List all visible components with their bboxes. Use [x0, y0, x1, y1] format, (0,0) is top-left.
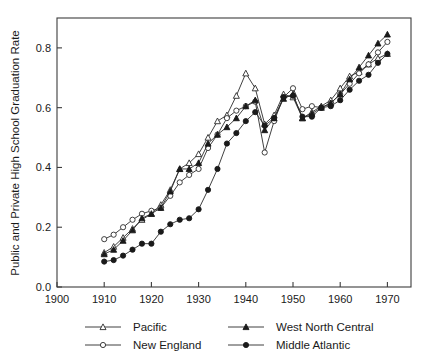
data-point — [272, 116, 277, 121]
x-tick-label: 1940 — [234, 293, 258, 305]
legend-marker — [100, 342, 105, 347]
data-point — [168, 222, 173, 227]
data-point — [356, 71, 361, 76]
x-tick-label: 1930 — [186, 293, 210, 305]
y-tick-label: 0.4 — [36, 161, 51, 173]
data-point — [366, 62, 371, 67]
x-tick-label: 1900 — [45, 293, 69, 305]
data-point — [130, 217, 135, 222]
x-tick-label: 1910 — [92, 293, 116, 305]
data-point — [347, 87, 352, 92]
data-point — [328, 104, 333, 109]
legend-label: Middle Atlantic — [276, 339, 350, 351]
chart-figure: 19001910192019301940195019601970 0.00.20… — [0, 0, 426, 360]
legend-label: New England — [133, 339, 201, 351]
x-tick-label: 1960 — [328, 293, 352, 305]
x-tick-label: 1950 — [281, 293, 305, 305]
data-point — [262, 150, 267, 155]
y-tick-label: 0.6 — [36, 102, 51, 114]
data-point — [234, 130, 239, 135]
data-point — [224, 141, 229, 146]
data-point — [234, 108, 239, 113]
y-tick-label: 0.0 — [36, 281, 51, 293]
data-point — [290, 86, 295, 91]
data-point — [158, 229, 163, 234]
data-point — [375, 60, 380, 65]
data-point — [149, 241, 154, 246]
data-point — [253, 110, 258, 115]
data-point — [385, 39, 390, 44]
data-point — [187, 216, 192, 221]
data-point — [111, 232, 116, 237]
data-point — [196, 207, 201, 212]
data-point — [224, 116, 229, 121]
data-point — [139, 241, 144, 246]
data-point — [187, 172, 192, 177]
data-point — [102, 237, 107, 242]
data-point — [338, 98, 343, 103]
data-point — [196, 166, 201, 171]
data-point — [243, 119, 248, 124]
data-point — [177, 217, 182, 222]
data-point — [375, 50, 380, 55]
data-point — [111, 258, 116, 263]
x-tick-label: 1970 — [375, 293, 399, 305]
data-point — [309, 104, 314, 109]
data-point — [281, 95, 286, 100]
data-point — [205, 187, 210, 192]
data-point — [385, 51, 390, 56]
data-point — [215, 166, 220, 171]
legend-marker — [243, 342, 248, 347]
x-tick-label: 1920 — [139, 293, 163, 305]
chart-background — [0, 0, 426, 360]
data-point — [300, 107, 305, 112]
data-point — [319, 105, 324, 110]
data-point — [177, 180, 182, 185]
y-axis-title: Public and Private High School Graduatio… — [9, 30, 21, 275]
data-point — [300, 114, 305, 119]
data-point — [366, 72, 371, 77]
y-tick-label: 0.8 — [36, 42, 51, 54]
data-point — [130, 247, 135, 252]
data-point — [102, 259, 107, 264]
legend-label: West North Central — [276, 321, 374, 333]
data-point — [309, 114, 314, 119]
data-point — [120, 225, 125, 230]
data-point — [290, 93, 295, 98]
line-chart: 19001910192019301940195019601970 0.00.20… — [0, 0, 426, 360]
legend-label: Pacific — [133, 321, 167, 333]
data-point — [120, 253, 125, 258]
data-point — [262, 123, 267, 128]
data-point — [356, 78, 361, 83]
y-tick-label: 0.2 — [36, 221, 51, 233]
